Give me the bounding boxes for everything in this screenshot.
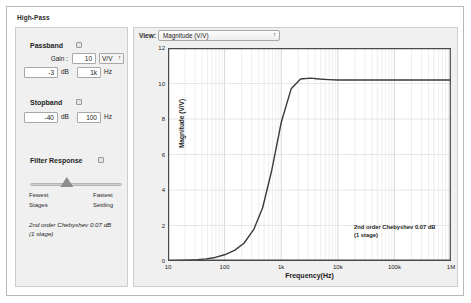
y-axis-title: Magnitude (V/V) — [178, 89, 185, 159]
passband-help-icon[interactable] — [76, 42, 82, 48]
filter-response-note-line1: 2nd order Chebyshev 0.07 dB — [29, 221, 127, 230]
filter-response-help-icon[interactable] — [98, 157, 104, 163]
passband-ripple-unit: dB — [61, 68, 69, 75]
y-tick-label: 4 — [162, 187, 165, 193]
view-select-value: Magnitude (V/V) — [163, 32, 209, 39]
y-tick-label: 2 — [162, 223, 165, 229]
x-axis-title: Frequency(Hz) — [168, 272, 451, 279]
filter-designer-window: High-Pass Passband Gain : 10 V/V ↕ -3 dB… — [6, 6, 464, 296]
slider-right-label-line2: Settling — [93, 201, 113, 209]
passband-frequency-input[interactable]: 1k — [77, 67, 101, 78]
y-tick-label: 12 — [158, 45, 165, 51]
chevron-updown-icon: ↕ — [272, 32, 277, 41]
slider-right-label-line1: Fastest — [93, 191, 113, 199]
y-tick-label: 8 — [162, 116, 165, 122]
stopband-group-title: Stopband — [30, 99, 62, 106]
y-tick-label: 6 — [162, 152, 165, 158]
gain-label: Gain : — [24, 55, 68, 62]
chart-panel: View: Magnitude (V/V) ↕ Magnitude (V/V) … — [133, 27, 458, 287]
stopband-attenuation-unit: dB — [61, 113, 69, 120]
page-title: High-Pass — [17, 14, 50, 21]
y-tick-label: 10 — [158, 81, 165, 87]
chevron-updown-icon: ↕ — [117, 55, 122, 64]
passband-ripple-input[interactable]: -3 — [24, 67, 58, 78]
stopband-frequency-input[interactable]: 100 — [77, 112, 101, 123]
x-tick-label: 10k — [333, 264, 343, 270]
x-tick-label: 1k — [278, 264, 284, 270]
gain-input[interactable]: 10 — [72, 53, 96, 64]
slider-left-label-line2: Stages — [29, 201, 48, 209]
filter-response-note: 2nd order Chebyshev 0.07 dB (1 stage) — [29, 221, 127, 238]
filter-response-slider[interactable] — [30, 183, 122, 186]
parameters-panel: Passband Gain : 10 V/V ↕ -3 dB 1k Hz Sto… — [15, 27, 128, 287]
stopband-frequency-unit: Hz — [104, 113, 112, 120]
magnitude-plot: Magnitude (V/V) 024681012 101001k10k100k… — [168, 48, 451, 261]
stopband-attenuation-input[interactable]: -40 — [24, 112, 58, 123]
view-select[interactable]: Magnitude (V/V) ↕ — [158, 30, 280, 41]
x-tick-label: 100 — [220, 264, 230, 270]
filter-response-note-line2: (1 stage) — [29, 230, 127, 239]
chart-annotation: 2nd order Chebyshev 0.07 dB (1 stage) — [354, 224, 436, 239]
filter-response-title: Filter Response — [30, 157, 83, 164]
passband-frequency-unit: Hz — [104, 68, 112, 75]
x-tick-label: 10 — [165, 264, 172, 270]
x-tick-label: 1M — [447, 264, 455, 270]
chart-annotation-line1: 2nd order Chebyshev 0.07 dB — [354, 224, 436, 232]
slider-left-label-line1: Fewest — [29, 191, 48, 199]
filter-response-slider-thumb[interactable] — [60, 177, 73, 187]
stopband-help-icon[interactable] — [76, 99, 82, 105]
view-label: View: — [139, 32, 156, 39]
gain-unit-select[interactable]: V/V ↕ — [99, 53, 124, 64]
chart-annotation-line2: (1 stage) — [354, 232, 436, 240]
passband-group-title: Passband — [30, 42, 63, 49]
x-tick-label: 100k — [388, 264, 401, 270]
gain-unit-label: V/V — [102, 55, 112, 62]
